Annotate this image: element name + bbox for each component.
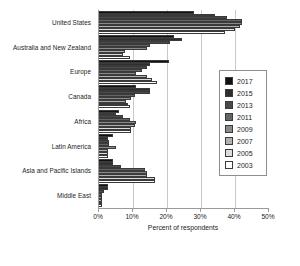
- legend-item[interactable]: 2017: [225, 75, 263, 87]
- bar[interactable]: [99, 130, 131, 133]
- legend-item[interactable]: 2003: [225, 159, 263, 171]
- chart-legend: 20172015201320112009200720052003: [219, 70, 267, 176]
- legend-label: 2015: [237, 90, 253, 97]
- legend-item[interactable]: 2013: [225, 99, 263, 111]
- category-label: Asia and Pacific Islands: [0, 159, 95, 184]
- bar-row: [99, 180, 269, 183]
- category-label: Australia and New Zealand: [0, 35, 95, 60]
- x-tick-label: 30%: [193, 213, 206, 220]
- bar-row: [99, 31, 269, 34]
- legend-swatch-icon: [225, 113, 233, 121]
- x-tick-label: 40%: [227, 213, 240, 220]
- legend-item[interactable]: 2015: [225, 87, 263, 99]
- category-label: Europe: [0, 60, 95, 85]
- bar[interactable]: [99, 56, 130, 59]
- legend-item[interactable]: 2011: [225, 111, 263, 123]
- x-tick-label: 50%: [261, 213, 274, 220]
- x-tick-mark: [98, 209, 99, 212]
- category-label: Africa: [0, 109, 95, 134]
- bar-group: [99, 35, 269, 60]
- bar[interactable]: [99, 204, 102, 207]
- category-label: Middle East: [0, 183, 95, 208]
- bar-row: [99, 56, 269, 59]
- legend-label: 2007: [237, 138, 253, 145]
- legend-label: 2005: [237, 150, 253, 157]
- bar-chart: United StatesAustralia and New ZealandEu…: [0, 0, 300, 266]
- category-axis: United StatesAustralia and New ZealandEu…: [0, 10, 95, 208]
- x-tick-mark: [166, 209, 167, 212]
- x-tick-mark: [234, 209, 235, 212]
- legend-item[interactable]: 2005: [225, 147, 263, 159]
- x-tick-mark: [200, 209, 201, 212]
- x-axis-ticks: 0%10%20%30%40%50%: [98, 209, 268, 223]
- legend-swatch-icon: [225, 137, 233, 145]
- bar[interactable]: [99, 31, 225, 34]
- bar[interactable]: [99, 105, 130, 108]
- category-label: Canada: [0, 84, 95, 109]
- legend-swatch-icon: [225, 125, 233, 133]
- bar[interactable]: [99, 81, 157, 84]
- x-tick-mark: [268, 209, 269, 212]
- legend-label: 2009: [237, 126, 253, 133]
- legend-item[interactable]: 2009: [225, 123, 263, 135]
- legend-swatch-icon: [225, 149, 233, 157]
- legend-label: 2013: [237, 102, 253, 109]
- legend-label: 2011: [237, 114, 252, 121]
- x-tick-label: 20%: [159, 213, 172, 220]
- bar-row: [99, 204, 269, 207]
- bar-group: [99, 10, 269, 35]
- legend-swatch-icon: [225, 89, 233, 97]
- legend-swatch-icon: [225, 161, 233, 169]
- bar[interactable]: [99, 180, 155, 183]
- bar[interactable]: [99, 155, 108, 158]
- category-label: Latin America: [0, 134, 95, 159]
- x-tick-mark: [132, 209, 133, 212]
- legend-item[interactable]: 2007: [225, 135, 263, 147]
- legend-swatch-icon: [225, 101, 233, 109]
- legend-swatch-icon: [225, 77, 233, 85]
- legend-label: 2003: [237, 162, 253, 169]
- x-tick-label: 0%: [93, 213, 103, 220]
- legend-label: 2017: [237, 78, 253, 85]
- bar-group: [99, 183, 269, 208]
- category-label: United States: [0, 10, 95, 35]
- x-tick-label: 10%: [125, 213, 138, 220]
- x-axis-title: Percent of respondents: [98, 224, 268, 231]
